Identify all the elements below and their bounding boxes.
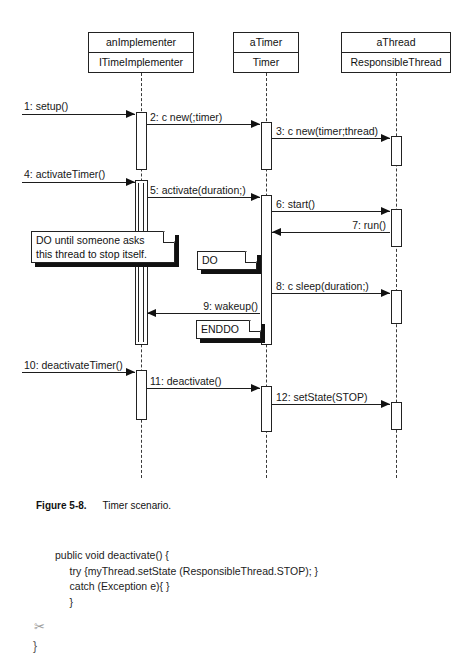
message-arrowhead-6 xyxy=(381,207,390,215)
message-arrowhead-5 xyxy=(251,193,260,201)
message-line-6 xyxy=(272,211,390,212)
trailing-brace: } xyxy=(33,640,37,653)
activation-bar xyxy=(391,402,402,430)
note-shadow xyxy=(201,270,261,274)
sequence-diagram: anImplementerITimeImplementeraTimerTimer… xyxy=(0,0,459,520)
message-label-8: 8: c sleep(duration;) xyxy=(276,280,369,292)
message-line-4 xyxy=(22,182,135,183)
lifeline-class-name: ResponsibleThread xyxy=(342,53,450,72)
activation-bar xyxy=(391,290,402,324)
activation-bar xyxy=(391,136,402,166)
activation-bar xyxy=(261,386,272,432)
activation-bar xyxy=(391,209,402,247)
note-fold-corner-icon xyxy=(245,251,257,263)
message-arrowhead-10 xyxy=(126,368,135,376)
message-arrowhead-3 xyxy=(381,134,390,142)
message-label-3: 3: c new(timer;thread) xyxy=(276,125,378,137)
note-enddo-marker: ENDDO xyxy=(196,320,261,339)
note-do-marker: DO xyxy=(197,251,257,270)
message-line-1 xyxy=(22,114,135,115)
lifeline-header-aTimer: aTimerTimer xyxy=(233,32,299,73)
note-text: ENDDO xyxy=(201,322,239,336)
note-shadow xyxy=(200,339,265,343)
lifeline-header-aThread: aThreadResponsibleThread xyxy=(341,32,451,73)
message-line-9 xyxy=(147,313,260,314)
message-label-10: 10: deactivateTimer() xyxy=(24,359,123,371)
message-arrowhead-9 xyxy=(147,309,156,317)
note-loop-note: DO until someone asks this thread to sto… xyxy=(31,231,175,263)
note-text: DO until someone asks this thread to sto… xyxy=(36,233,147,261)
activation-bar xyxy=(136,370,147,420)
message-arrowhead-1 xyxy=(126,110,135,118)
lifeline-class-name: ITimeImplementer xyxy=(89,53,193,72)
message-label-7: 7: run() xyxy=(352,219,386,231)
message-label-9: 9: wakeup() xyxy=(203,300,258,312)
message-label-4: 4: activateTimer() xyxy=(24,168,105,180)
note-fold-corner-icon xyxy=(163,231,175,243)
note-shadow xyxy=(261,324,265,342)
message-line-3 xyxy=(272,138,390,139)
note-shadow xyxy=(257,255,261,273)
message-line-12 xyxy=(272,404,390,405)
activation-bar xyxy=(136,112,147,170)
note-shadow xyxy=(35,263,179,267)
message-line-2 xyxy=(147,124,260,125)
figure-caption: Figure 5-8.Timer scenario. xyxy=(36,500,171,511)
message-line-7 xyxy=(272,232,390,233)
note-shadow xyxy=(175,235,179,266)
message-arrowhead-2 xyxy=(251,120,260,128)
message-label-1: 1: setup() xyxy=(24,100,68,112)
message-label-2: 2: c new(;timer) xyxy=(150,111,222,123)
figure-label: Figure 5-8. xyxy=(36,500,87,511)
figure-caption-text: Timer scenario. xyxy=(103,500,172,511)
lifeline-instance-name: aThread xyxy=(342,33,450,53)
activation-bar xyxy=(261,195,272,345)
message-label-5: 5: activate(duration;) xyxy=(150,184,246,196)
lifeline-class-name: Timer xyxy=(234,53,298,72)
message-label-11: 11: deactivate() xyxy=(150,375,222,387)
lifeline-instance-name: aTimer xyxy=(234,33,298,53)
scissors-icon: ✂ xyxy=(34,620,45,634)
lifeline-instance-name: anImplementer xyxy=(89,33,193,53)
message-line-11 xyxy=(147,388,260,389)
message-arrowhead-12 xyxy=(381,400,390,408)
message-arrowhead-11 xyxy=(251,384,260,392)
note-text: DO xyxy=(202,253,218,267)
message-line-8 xyxy=(272,293,390,294)
message-line-5 xyxy=(147,197,260,198)
message-line-10 xyxy=(22,372,135,373)
lifeline-header-anImplementer: anImplementerITimeImplementer xyxy=(88,32,194,73)
message-arrowhead-7 xyxy=(272,228,281,236)
message-label-12: 12: setState(STOP) xyxy=(276,391,367,403)
activation-bar xyxy=(261,122,272,170)
message-arrowhead-4 xyxy=(126,178,135,186)
message-arrowhead-8 xyxy=(381,289,390,297)
message-label-6: 6: start() xyxy=(276,198,315,210)
code-block: public void deactivate() { try {myThread… xyxy=(55,548,318,610)
